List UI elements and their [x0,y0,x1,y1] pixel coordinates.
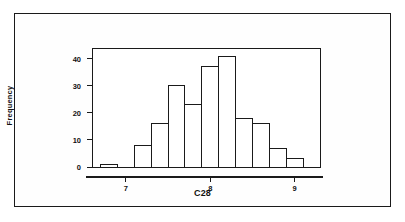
y-tick-label: 40 [59,55,81,64]
y-tick-label: 20 [59,109,81,118]
histogram-figure: Frequency C28 010203040 789 [0,0,405,222]
y-axis-title: Frequency [5,76,14,136]
histogram-bar [151,124,168,167]
y-tick-label: 10 [59,136,81,145]
histogram-bar [252,124,269,167]
histogram-bar [134,145,151,167]
x-tick-label: 8 [200,184,220,193]
y-tick-label: 30 [59,82,81,91]
x-tick-label: 9 [285,184,305,193]
y-tick-label: 0 [59,163,81,172]
histogram-bar [269,148,286,167]
histogram-bar [100,164,117,167]
histogram-bar [236,118,253,167]
histogram-bar [202,67,219,167]
histogram-bar [219,56,236,167]
x-tick-label: 7 [116,184,136,193]
histogram-bar [168,86,185,167]
histogram-bar [185,105,202,167]
histogram-bar [286,159,303,167]
